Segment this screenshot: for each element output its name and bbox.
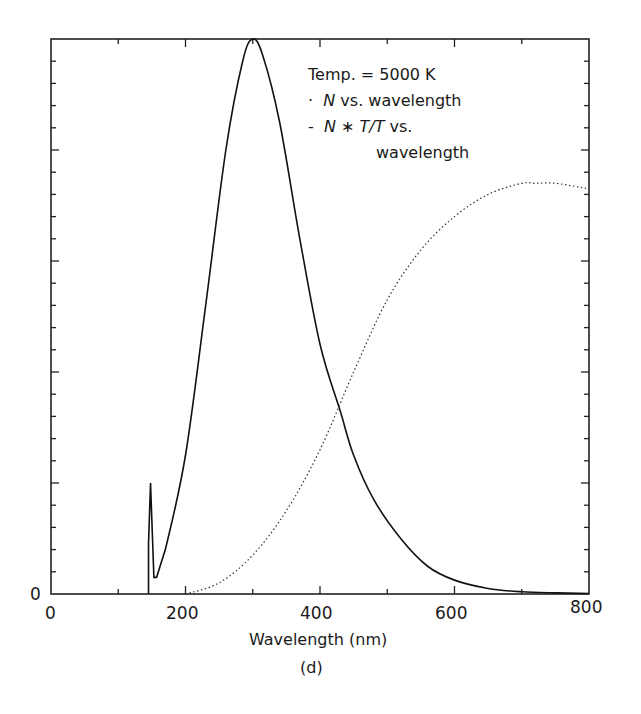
legend-NTT-symbol: N ∗ T/T — [324, 117, 384, 136]
legend-NTT-text: vs. — [384, 117, 412, 136]
x-tick-label-0: 0 — [45, 603, 56, 623]
x-axis-title: Wavelength (nm) — [249, 630, 387, 649]
legend: Temp. = 5000 K · N vs. wavelength - N ∗ … — [308, 62, 469, 166]
dotted-curve-N — [186, 182, 590, 594]
figure-caption: (d) — [300, 658, 323, 677]
y-zero-label: 0 — [30, 584, 41, 604]
x-tick-label-200: 200 — [166, 603, 198, 623]
legend-entry-NTT: - N ∗ T/T vs. — [308, 114, 469, 140]
legend-entry-NTT-cont: wavelength — [308, 140, 469, 166]
legend-header: Temp. = 5000 K — [308, 62, 469, 88]
legend-entry-N: · N vs. wavelength — [308, 88, 469, 114]
legend-N-text: vs. wavelength — [335, 91, 461, 110]
legend-dot-marker: · — [308, 91, 313, 110]
legend-N-symbol: N — [323, 91, 335, 110]
legend-dash-marker: - — [308, 117, 314, 136]
x-tick-label-600: 600 — [435, 603, 467, 623]
x-tick-label-800: 800 — [570, 597, 602, 617]
x-tick-label-400: 400 — [300, 603, 332, 623]
